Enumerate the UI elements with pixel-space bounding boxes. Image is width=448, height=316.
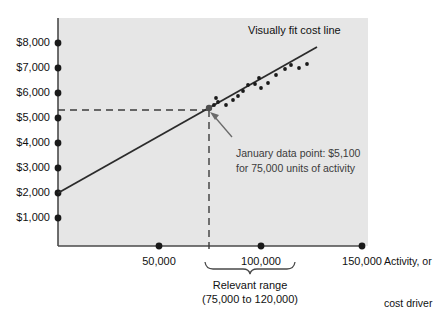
x-axis-title-line-1: Activity, or [384,255,448,269]
chart-canvas [0,0,448,316]
data-point [266,81,270,85]
data-point [259,86,263,90]
y-axis-label-3000: $3,000 [2,161,50,174]
data-point [283,67,287,71]
x-axis-title: Activity, or cost driver (dozens of bake… [384,227,448,316]
x-axis-title-line-2: cost driver [384,297,448,311]
y-axis-label-5000: $5,000 [2,111,50,124]
data-point [253,82,257,86]
january-data-point [206,105,212,111]
y-tick-8000 [55,40,62,47]
data-point [231,98,235,102]
y-tick-4000 [55,140,62,147]
x-tick-150000 [359,243,366,250]
y-axis-label-7000: $7,000 [2,61,50,74]
y-tick-3000 [55,165,62,172]
plot-area-background [58,18,368,246]
relevant-range-label-line-1: Relevant range [180,278,320,292]
january-annotation-line-1: January data point: $5,100 [236,146,360,160]
data-point [297,66,301,70]
y-axis-label-2000: $2,000 [2,186,50,199]
x-tick-50000 [156,243,163,250]
y-axis-label-4000: $4,000 [2,136,50,149]
y-axis-label-8000: $8,000 [2,36,50,49]
data-point [305,62,309,66]
data-point [224,103,228,107]
x-axis-label-50000: 50,000 [120,255,198,268]
y-tick-1000 [55,215,62,222]
cost-behavior-scatter-chart: $8,000 $7,000 $6,000 $5,000 $4,000 $3,00… [0,0,448,316]
y-tick-6000 [55,90,62,97]
data-point [216,100,220,104]
y-axis-label-1000: $1,000 [2,211,50,224]
data-point [246,83,250,87]
data-point [241,89,245,93]
y-axis-label-6000: $6,000 [2,86,50,99]
x-axis-label-100000: 100,000 [222,255,300,268]
data-point [257,76,261,80]
data-point [212,103,216,107]
relevant-range-label-line-2: (75,000 to 120,000) [180,292,320,306]
cost-line-label: Visually fit cost line [248,24,341,37]
y-tick-7000 [55,65,62,72]
january-annotation-line-2: for 75,000 units of activity [236,161,355,175]
data-point [214,96,218,100]
data-point [274,73,278,77]
data-point [289,63,293,67]
data-point [236,94,240,98]
y-tick-5000 [55,115,62,122]
x-tick-100000 [258,243,265,250]
